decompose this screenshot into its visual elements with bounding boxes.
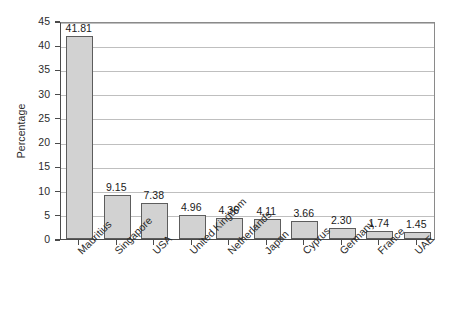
bar-value-label: 1.45 <box>386 218 446 230</box>
gridline <box>61 23 434 24</box>
y-axis-tick-label: 10 <box>22 185 50 197</box>
y-axis-title: Percentage <box>12 22 30 240</box>
y-axis-tick-label: 0 <box>22 233 50 245</box>
y-axis-tick-label: 20 <box>22 136 50 148</box>
gridline <box>61 168 434 169</box>
y-axis-tick-label: 5 <box>22 209 50 221</box>
gridline <box>61 47 434 48</box>
y-axis-tick-label: 45 <box>22 15 50 27</box>
bar <box>66 36 93 239</box>
gridline <box>61 95 434 96</box>
y-axis-tick-label: 30 <box>22 88 50 100</box>
y-axis-tick-label: 15 <box>22 160 50 172</box>
bar-chart: Percentage 051015202530354045 MauritiusS… <box>0 0 456 320</box>
gridline <box>61 119 434 120</box>
gridline <box>61 144 434 145</box>
y-axis-tick-label: 35 <box>22 63 50 75</box>
y-axis-tick-label: 25 <box>22 112 50 124</box>
y-axis-tick-label: 40 <box>22 39 50 51</box>
gridline <box>61 71 434 72</box>
bar-value-label: 41.81 <box>49 22 109 34</box>
bar-value-label: 7.38 <box>124 189 184 201</box>
